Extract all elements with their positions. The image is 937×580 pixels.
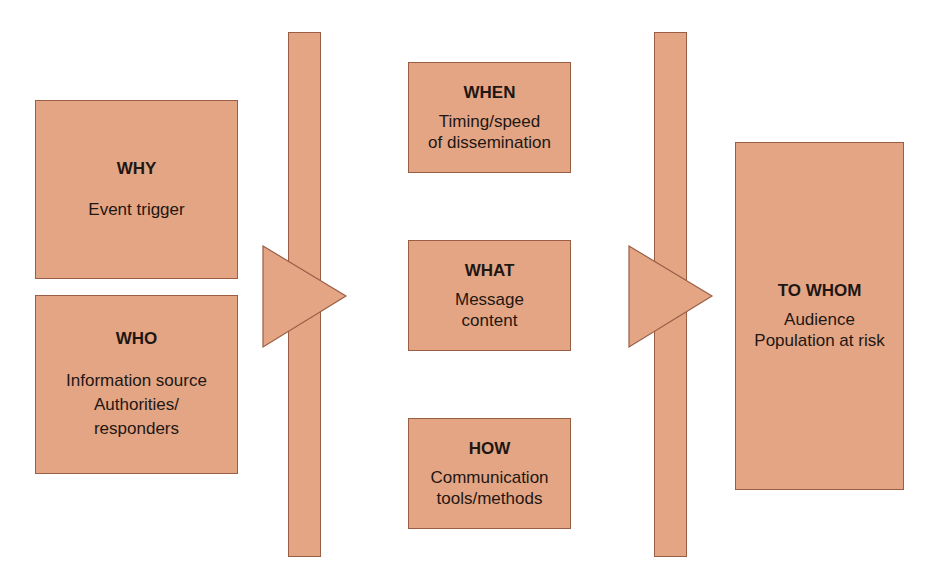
to-whom-title: TO WHOM: [778, 281, 862, 301]
when-box: WHEN Timing/speed of dissemination: [408, 62, 571, 173]
who-box: WHO Information source Authorities/ resp…: [35, 295, 238, 474]
to-whom-box: TO WHOM Audience Population at risk: [735, 142, 904, 490]
why-description: Event trigger: [88, 199, 184, 220]
how-description: Communication tools/methods: [430, 467, 548, 509]
why-title: WHY: [117, 159, 157, 179]
who-title: WHO: [116, 329, 158, 349]
when-title: WHEN: [464, 83, 516, 103]
when-description: Timing/speed of dissemination: [428, 111, 551, 153]
how-box: HOW Communication tools/methods: [408, 418, 571, 529]
what-description: Message content: [455, 289, 524, 331]
arrow-right-icon: [262, 245, 348, 349]
why-box: WHY Event trigger: [35, 100, 238, 279]
what-box: WHAT Message content: [408, 240, 571, 351]
arrow-right-icon: [628, 245, 714, 349]
to-whom-description: Audience Population at risk: [754, 309, 884, 351]
who-description: Information source Authorities/ responde…: [66, 369, 207, 441]
what-title: WHAT: [465, 261, 515, 281]
how-title: HOW: [469, 439, 511, 459]
